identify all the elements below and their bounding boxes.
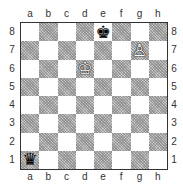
square-d7[interactable] (76, 41, 94, 59)
rank-label-4: 4 (168, 100, 180, 110)
square-d1[interactable] (76, 151, 94, 169)
square-e2[interactable] (94, 133, 112, 151)
square-f5[interactable] (112, 78, 130, 96)
square-a3[interactable] (21, 114, 39, 132)
rank-label-5: 5 (168, 82, 180, 92)
square-e5[interactable] (94, 78, 112, 96)
square-b1[interactable] (39, 151, 57, 169)
square-b3[interactable] (39, 114, 57, 132)
square-a7[interactable] (21, 41, 39, 59)
file-label-d: d (76, 9, 94, 19)
file-label-h: h (149, 172, 167, 182)
file-label-e: e (94, 9, 112, 19)
square-a1[interactable]: ♛ (21, 151, 39, 169)
file-label-g: g (131, 9, 149, 19)
square-c7[interactable] (58, 41, 76, 59)
square-h4[interactable] (149, 96, 167, 114)
file-label-b: b (39, 9, 57, 19)
square-h6[interactable] (149, 60, 167, 78)
square-e3[interactable] (94, 114, 112, 132)
square-c4[interactable] (58, 96, 76, 114)
square-e8[interactable]: ♚ (94, 23, 112, 41)
square-a8[interactable] (21, 23, 39, 41)
square-b4[interactable] (39, 96, 57, 114)
square-c5[interactable] (58, 78, 76, 96)
file-label-g: g (131, 172, 149, 182)
square-a2[interactable] (21, 133, 39, 151)
square-h8[interactable] (149, 23, 167, 41)
square-h2[interactable] (149, 133, 167, 151)
rank-label-2: 2 (6, 137, 18, 147)
square-g8[interactable] (131, 23, 149, 41)
rank-label-1: 1 (6, 155, 18, 165)
square-g7[interactable]: ♙ (131, 41, 149, 59)
square-f3[interactable] (112, 114, 130, 132)
rank-label-8: 8 (6, 27, 18, 37)
square-f4[interactable] (112, 96, 130, 114)
file-label-f: f (112, 9, 130, 19)
square-b8[interactable] (39, 23, 57, 41)
rank-label-2: 2 (168, 137, 180, 147)
square-b7[interactable] (39, 41, 57, 59)
square-a4[interactable] (21, 96, 39, 114)
square-f1[interactable] (112, 151, 130, 169)
square-e4[interactable] (94, 96, 112, 114)
square-h5[interactable] (149, 78, 167, 96)
file-label-b: b (39, 172, 57, 182)
file-label-c: c (58, 9, 76, 19)
square-g5[interactable] (131, 78, 149, 96)
rank-label-3: 3 (6, 118, 18, 128)
square-c2[interactable] (58, 133, 76, 151)
square-h1[interactable] (149, 151, 167, 169)
square-g2[interactable] (131, 133, 149, 151)
rank-label-1: 1 (168, 155, 180, 165)
white-pawn-icon[interactable]: ♙ (132, 42, 147, 59)
file-label-e: e (94, 172, 112, 182)
square-f7[interactable] (112, 41, 130, 59)
square-f8[interactable] (112, 23, 130, 41)
square-c1[interactable] (58, 151, 76, 169)
rank-label-6: 6 (6, 64, 18, 74)
square-g6[interactable] (131, 60, 149, 78)
square-e1[interactable] (94, 151, 112, 169)
square-d3[interactable] (76, 114, 94, 132)
square-f2[interactable] (112, 133, 130, 151)
square-d5[interactable] (76, 78, 94, 96)
chess-board: ♚♙♔♛ (20, 22, 168, 170)
square-h7[interactable] (149, 41, 167, 59)
square-c3[interactable] (58, 114, 76, 132)
file-label-a: a (21, 9, 39, 19)
rank-label-7: 7 (6, 45, 18, 55)
square-b2[interactable] (39, 133, 57, 151)
rank-label-8: 8 (168, 27, 180, 37)
square-b6[interactable] (39, 60, 57, 78)
file-label-c: c (58, 172, 76, 182)
square-c8[interactable] (58, 23, 76, 41)
rank-label-6: 6 (168, 64, 180, 74)
rank-label-3: 3 (168, 118, 180, 128)
square-h3[interactable] (149, 114, 167, 132)
file-label-a: a (21, 172, 39, 182)
square-g4[interactable] (131, 96, 149, 114)
black-queen-icon[interactable]: ♛ (23, 151, 38, 168)
square-a5[interactable] (21, 78, 39, 96)
black-king-icon[interactable]: ♚ (96, 24, 111, 41)
file-label-d: d (76, 172, 94, 182)
square-b5[interactable] (39, 78, 57, 96)
square-d4[interactable] (76, 96, 94, 114)
square-d6[interactable]: ♔ (76, 60, 94, 78)
square-a6[interactable] (21, 60, 39, 78)
rank-label-5: 5 (6, 82, 18, 92)
file-label-h: h (149, 9, 167, 19)
square-e7[interactable] (94, 41, 112, 59)
rank-label-7: 7 (168, 45, 180, 55)
square-c6[interactable] (58, 60, 76, 78)
square-d2[interactable] (76, 133, 94, 151)
square-f6[interactable] (112, 60, 130, 78)
square-g1[interactable] (131, 151, 149, 169)
square-d8[interactable] (76, 23, 94, 41)
file-label-f: f (112, 172, 130, 182)
square-g3[interactable] (131, 114, 149, 132)
square-e6[interactable] (94, 60, 112, 78)
white-king-icon[interactable]: ♔ (77, 60, 92, 77)
